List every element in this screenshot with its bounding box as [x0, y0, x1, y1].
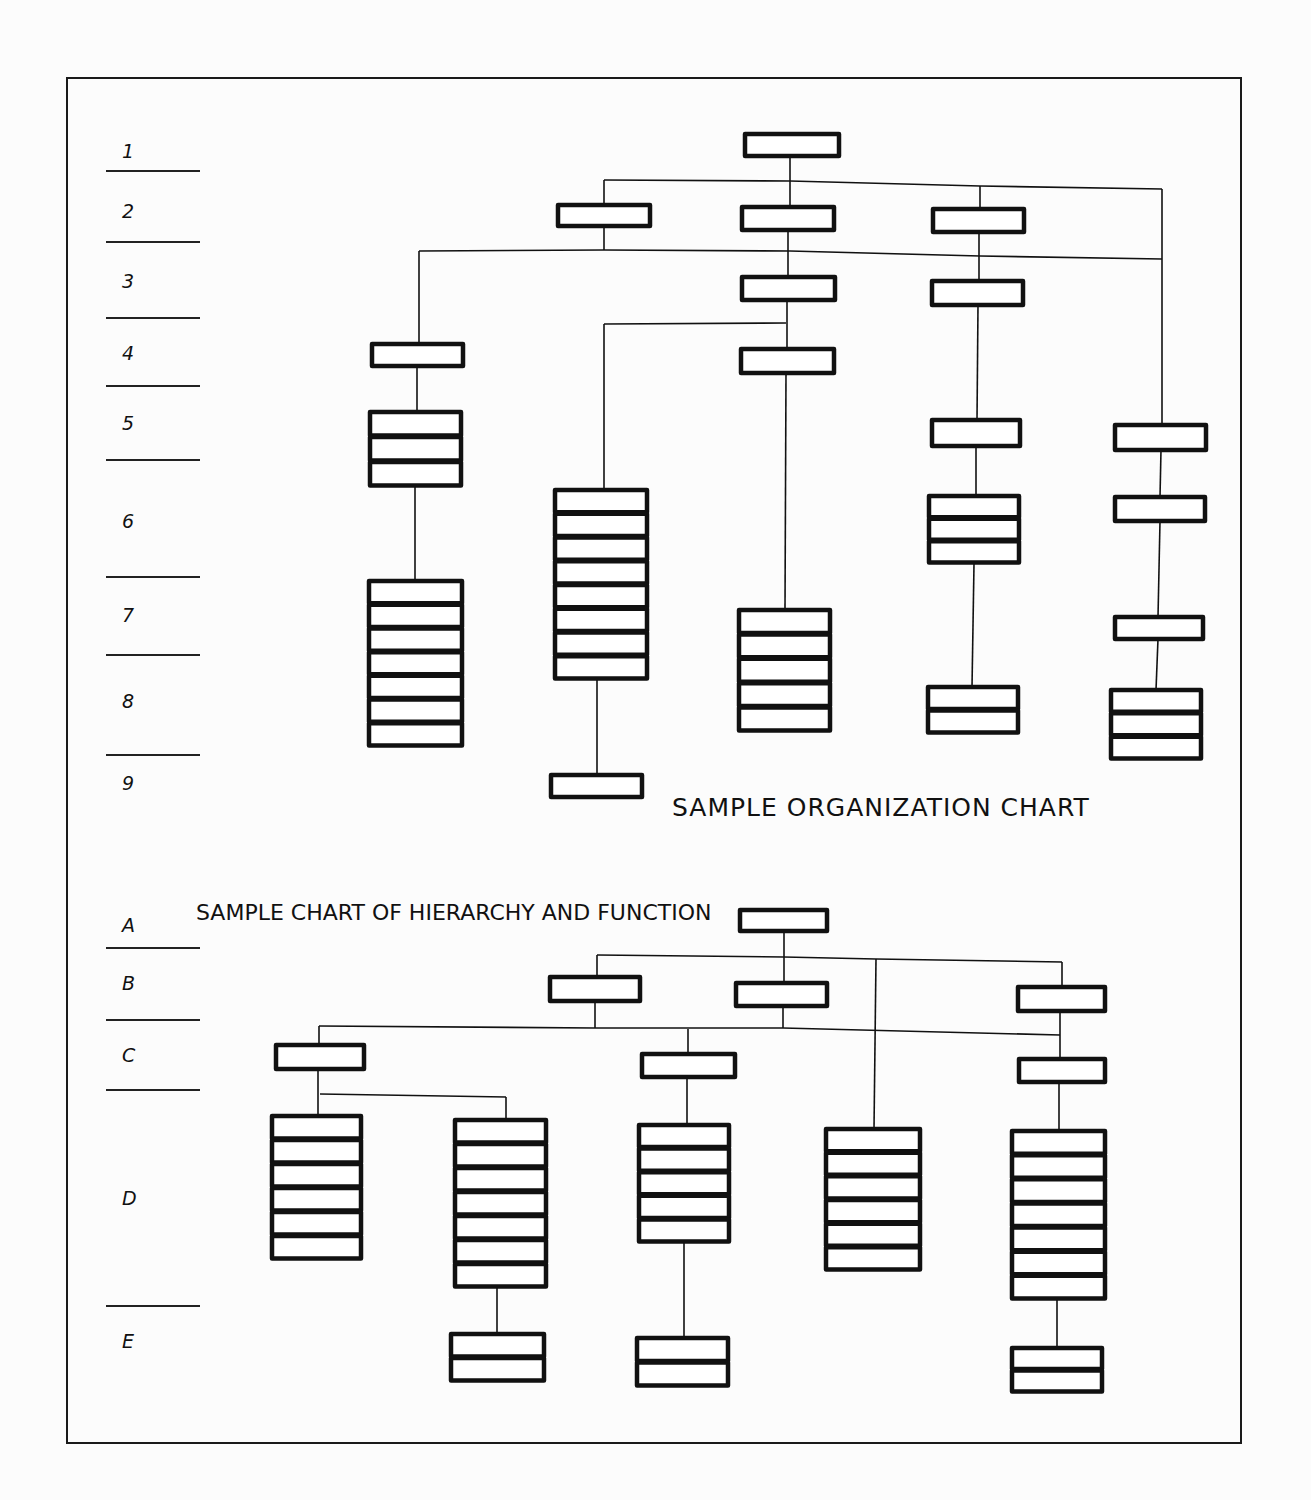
org-box	[928, 711, 1018, 733]
box-stack	[451, 1334, 544, 1381]
org-box	[739, 683, 830, 706]
org-box	[928, 687, 1018, 709]
org-box	[745, 134, 839, 156]
org-box	[739, 659, 830, 682]
level-label: 3	[122, 270, 134, 292]
org-box	[550, 977, 640, 1001]
org-box	[745, 134, 839, 156]
org-chart-drawing: 123456789 SAMPLE ORGANIZATION CHART ABCD…	[0, 0, 1311, 1500]
level-label: A	[120, 914, 135, 936]
connector-line	[874, 959, 876, 1129]
org-box	[929, 496, 1019, 517]
org-box	[555, 538, 647, 560]
org-box	[1018, 987, 1105, 1011]
org-box	[550, 977, 640, 1001]
org-box	[933, 209, 1024, 232]
connector-line	[320, 1094, 506, 1097]
org-box	[741, 349, 834, 373]
box-stack	[929, 496, 1019, 563]
top-level-scale: 123456789	[106, 140, 200, 794]
org-box	[642, 1054, 735, 1077]
org-box	[370, 412, 461, 436]
bottom-level-scale: ABCDE	[106, 914, 200, 1352]
org-box	[558, 205, 650, 226]
box-stack	[826, 1129, 920, 1270]
org-box	[739, 634, 830, 657]
org-box	[1012, 1371, 1102, 1392]
org-box	[555, 633, 647, 655]
sample-hierarchy-function-chart: ABCDE SAMPLE CHART OF HIERARCHY AND FUNC…	[106, 900, 1105, 1392]
org-box	[1012, 1131, 1105, 1154]
org-box	[642, 1054, 735, 1077]
level-label: B	[122, 972, 135, 994]
connector-line	[419, 250, 1162, 259]
box-stack	[739, 610, 830, 731]
box-stack	[272, 1116, 361, 1259]
org-box	[639, 1219, 729, 1241]
level-label: 4	[122, 342, 134, 364]
level-label: D	[122, 1187, 137, 1209]
connector-line	[972, 564, 974, 687]
org-box	[740, 910, 827, 931]
org-box	[369, 700, 462, 722]
org-box	[1111, 690, 1201, 712]
org-box	[1115, 425, 1206, 450]
org-box	[932, 281, 1023, 305]
org-box	[826, 1176, 920, 1198]
box-stack	[370, 412, 461, 486]
org-box	[555, 561, 647, 583]
connector-line	[604, 180, 1162, 189]
org-box	[558, 205, 650, 226]
org-box	[932, 420, 1020, 446]
org-box	[272, 1164, 361, 1187]
top-chart-title: SAMPLE ORGANIZATION CHART	[672, 793, 1090, 822]
org-box	[1018, 987, 1105, 1011]
level-label: 2	[122, 200, 134, 222]
org-box	[1115, 497, 1205, 521]
box-stack	[455, 1120, 546, 1287]
org-box	[555, 490, 647, 512]
org-box	[1012, 1228, 1105, 1251]
org-box	[739, 708, 830, 731]
level-label: 1	[122, 140, 134, 162]
org-box	[637, 1363, 728, 1386]
connector-line	[785, 373, 786, 610]
connector-line	[319, 1026, 1060, 1035]
box-stack	[1012, 1131, 1105, 1299]
org-box	[639, 1125, 729, 1147]
org-box	[370, 462, 461, 486]
org-box	[1012, 1276, 1105, 1299]
org-box	[1012, 1203, 1105, 1226]
org-box	[272, 1116, 361, 1139]
org-box	[826, 1200, 920, 1222]
org-box	[1115, 497, 1205, 521]
org-box	[1012, 1348, 1102, 1369]
box-stack	[555, 490, 647, 679]
org-box	[555, 514, 647, 536]
level-label: 9	[122, 772, 134, 794]
org-box	[639, 1172, 729, 1194]
org-box	[742, 277, 835, 300]
org-box	[742, 277, 835, 300]
org-box	[276, 1045, 364, 1069]
level-label: E	[122, 1330, 134, 1352]
sample-organization-chart: 123456789 SAMPLE ORGANIZATION CHART	[106, 134, 1206, 822]
org-box	[739, 610, 830, 633]
connector-line	[1160, 450, 1161, 497]
org-box	[276, 1045, 364, 1069]
org-box	[742, 207, 834, 230]
org-box	[929, 519, 1019, 540]
org-box	[372, 344, 463, 366]
org-box	[369, 723, 462, 745]
org-box	[451, 1334, 544, 1357]
org-box	[1115, 617, 1203, 639]
org-box	[455, 1120, 546, 1143]
org-box	[369, 628, 462, 650]
org-box	[369, 605, 462, 627]
org-box	[1019, 1059, 1105, 1082]
org-box	[933, 209, 1024, 232]
org-box	[455, 1168, 546, 1191]
box-stack	[928, 687, 1018, 733]
org-box	[551, 775, 642, 797]
org-box	[1012, 1252, 1105, 1275]
